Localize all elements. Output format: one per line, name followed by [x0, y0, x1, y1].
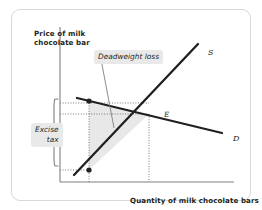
equilibrium-point-label: E — [164, 110, 169, 119]
excise-tax-label: Excise tax — [31, 123, 63, 147]
x-axis-label: Quantity of milk chocolate bars — [130, 196, 259, 205]
demand-curve-label: D — [233, 134, 239, 143]
consumer-price-point — [86, 98, 91, 103]
figure-panel: Price of milk chocolate bar Quantity of … — [11, 9, 251, 201]
y-axis-label-line1: Price of milk — [34, 29, 85, 38]
excise-tax-label-line2: tax — [47, 135, 59, 144]
deadweight-loss-label: Deadweight loss — [94, 50, 163, 64]
supply-curve-label: S — [208, 48, 213, 57]
excise-tax-label-line1: Excise — [35, 125, 59, 134]
producer-price-point — [86, 167, 91, 172]
y-axis-label-line2: chocolate bar — [34, 38, 90, 47]
y-axis-label: Price of milk chocolate bar — [34, 29, 90, 48]
